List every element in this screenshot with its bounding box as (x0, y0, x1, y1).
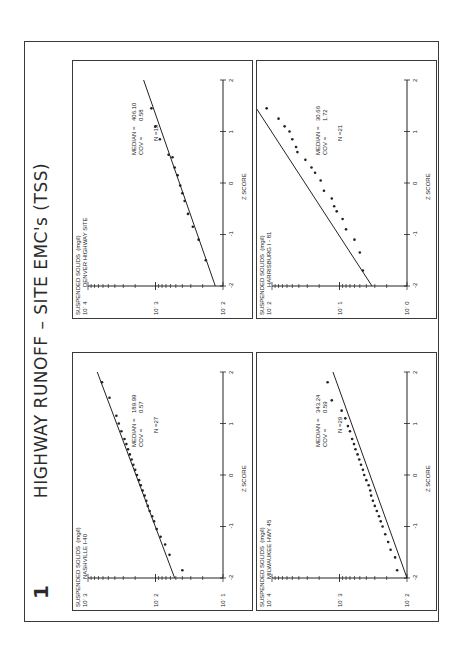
data-point (265, 107, 268, 110)
data-point (120, 430, 123, 433)
data-point (296, 151, 299, 154)
data-point (340, 409, 343, 412)
svg-text:2: 2 (228, 78, 234, 82)
svg-text:-2: -2 (412, 282, 418, 288)
data-point (291, 138, 294, 141)
svg-text:10ˈ 2: 10ˈ 2 (220, 301, 226, 315)
data-point (147, 505, 150, 508)
svg-text:10ˈ 1: 10ˈ 1 (337, 301, 343, 315)
chart-panel-harrisburg: SUSPENDED SOLIDS (mg/l) 10ˈ 2 HARRISBURG… (256, 60, 437, 319)
data-point (138, 479, 141, 482)
data-point (181, 192, 184, 195)
svg-text:-1: -1 (412, 523, 418, 529)
data-point (167, 153, 170, 156)
svg-text:-2: -2 (228, 282, 234, 288)
data-point (148, 510, 151, 513)
data-point (359, 251, 362, 254)
data-point (351, 438, 354, 441)
svg-text:-2: -2 (228, 574, 234, 580)
svg-text:10ˈ 2: 10ˈ 2 (404, 593, 410, 607)
data-point (358, 458, 361, 461)
data-point (349, 430, 352, 433)
data-point (197, 238, 200, 241)
svg-text:1: 1 (412, 422, 418, 426)
data-point (159, 138, 162, 141)
slide-title: HIGHWAY RUNOFF – SITE EMC's (TSS) (31, 40, 51, 621)
svg-text:2: 2 (228, 370, 234, 374)
chart-panel-milwaukee: SUSPENDED SOLIDS (mg/l) 10ˈ 4 MILWAUKEE … (256, 352, 437, 611)
data-point (356, 453, 359, 456)
data-point (331, 399, 334, 402)
data-point (378, 515, 381, 518)
data-point (353, 443, 356, 446)
svg-text:0: 0 (228, 181, 234, 185)
data-point (141, 489, 144, 492)
data-point (373, 505, 376, 508)
data-point (326, 381, 329, 384)
data-point (323, 189, 326, 192)
data-point (283, 125, 286, 128)
data-point (345, 228, 348, 231)
data-point (101, 381, 104, 384)
svg-text:2: 2 (412, 370, 418, 374)
svg-text:-1: -1 (228, 231, 234, 237)
data-point (117, 422, 120, 425)
svg-text:10ˈ 0: 10ˈ 0 (404, 301, 410, 315)
svg-text:10ˈ 1: 10ˈ 1 (220, 593, 226, 607)
data-point (125, 443, 128, 446)
data-point (155, 528, 158, 531)
data-point (314, 171, 317, 174)
data-point (179, 184, 182, 187)
data-point (171, 156, 174, 159)
svg-text:0: 0 (412, 181, 418, 185)
data-point (123, 438, 126, 441)
data-point (176, 174, 179, 177)
data-point (164, 543, 167, 546)
plot-area: 10ˈ 310ˈ 2-2-1012 (257, 351, 438, 610)
data-point (333, 205, 336, 208)
data-point (353, 238, 356, 241)
data-point (381, 525, 384, 528)
data-point (150, 107, 153, 110)
data-point (132, 463, 135, 466)
svg-text:10ˈ 2: 10ˈ 2 (153, 593, 159, 607)
data-point (277, 117, 280, 120)
data-point (295, 146, 298, 149)
data-point (363, 474, 366, 477)
data-point (367, 484, 370, 487)
data-point (173, 166, 176, 169)
data-point (288, 130, 291, 133)
svg-text:10ˈ 3: 10ˈ 3 (337, 593, 343, 607)
data-point (319, 179, 322, 182)
data-point (159, 536, 162, 539)
data-point (370, 494, 373, 497)
svg-text:1: 1 (228, 130, 234, 134)
data-point (130, 458, 133, 461)
data-point (365, 479, 368, 482)
data-point (362, 269, 365, 272)
svg-text:-1: -1 (412, 231, 418, 237)
data-point (168, 554, 171, 557)
plot-area: 10ˈ 110ˈ 0-2-1012 (257, 59, 438, 318)
data-point (387, 541, 390, 544)
data-point (108, 396, 111, 399)
data-point (362, 469, 365, 472)
chart-panel-denver: SUSPENDED SOLIDS (mg/l) 10ˈ 4 DENVER HIG… (72, 60, 253, 319)
data-point (204, 259, 207, 262)
data-point (129, 453, 132, 456)
svg-text:1: 1 (412, 130, 418, 134)
data-point (143, 494, 146, 497)
data-point (140, 484, 143, 487)
data-point (379, 520, 382, 523)
data-point (127, 448, 130, 451)
data-point (115, 414, 118, 417)
plot-area: 10ˈ 310ˈ 2-2-1012 (73, 59, 254, 318)
svg-text:0: 0 (412, 473, 418, 477)
data-point (344, 417, 347, 420)
data-point (181, 569, 184, 572)
svg-text:0: 0 (228, 473, 234, 477)
data-point (360, 463, 363, 466)
data-point (347, 425, 350, 428)
data-point (341, 218, 344, 221)
data-point (331, 197, 334, 200)
